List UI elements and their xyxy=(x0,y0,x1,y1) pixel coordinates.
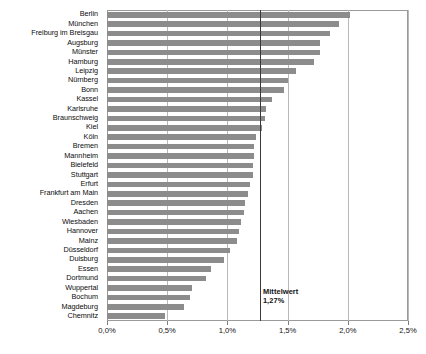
x-tick-label: 0,5% xyxy=(159,326,176,336)
x-tick-label: 1,0% xyxy=(219,326,236,336)
x-tick-label: 1,5% xyxy=(279,326,296,336)
x-tick-label: 0,0% xyxy=(98,326,115,336)
x-tick-mark xyxy=(107,321,108,325)
x-tick-mark xyxy=(227,321,228,325)
x-axis-layer: 0,0%0,5%1,0%1,5%2,0%2,5% xyxy=(0,0,426,354)
x-tick-mark xyxy=(408,321,409,325)
x-tick-mark xyxy=(167,321,168,325)
x-tick-label: 2,5% xyxy=(399,326,416,336)
x-tick-label: 2,0% xyxy=(339,326,356,336)
x-tick-mark xyxy=(288,321,289,325)
x-tick-mark xyxy=(348,321,349,325)
bar-chart: BerlinMünchenFreiburg im BreisgauAugsbur… xyxy=(0,0,426,354)
